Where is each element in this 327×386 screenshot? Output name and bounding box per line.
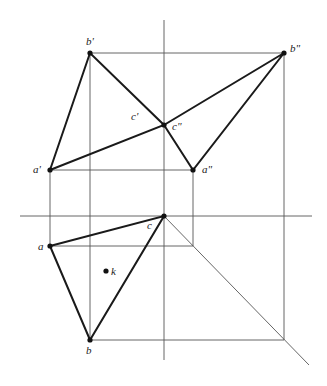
label-a-front: a' [33,163,42,175]
point-a-top [47,243,52,248]
side-view-triangle [164,53,284,170]
point-b-side [281,50,286,55]
point-b-front [87,50,92,55]
label-a-side: a" [202,163,213,175]
top-view-triangle [50,216,164,340]
point-a-side [190,167,195,172]
label-c-front: c' [131,110,139,122]
label-k-top: k [111,265,117,277]
point-c-side [161,122,166,127]
label-b-side: b" [290,42,301,54]
label-b-top: b [86,344,92,356]
label-c-top: c [147,219,152,231]
front-view-triangle [50,53,164,170]
label-b-front: b' [86,35,95,47]
point-b-top [87,337,92,342]
label-c-side: c" [172,120,182,132]
point-k-top [103,268,108,273]
label-a-top: a [38,240,44,252]
projection-diagram: b' c' c" a' a" b" a c k b [0,0,327,386]
diagonal-45-line [164,216,309,365]
point-c-top [161,213,166,218]
point-a-front [47,167,52,172]
